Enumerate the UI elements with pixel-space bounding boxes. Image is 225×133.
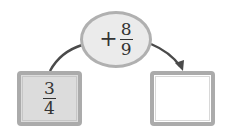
input-denominator: 4 <box>44 100 55 117</box>
operation-denominator: 9 <box>121 41 132 58</box>
input-arrow-line <box>50 45 82 71</box>
operation-fraction: 8 9 <box>120 21 133 58</box>
function-machine-diagram: + 8 9 3 4 <box>0 0 225 133</box>
answer-box[interactable] <box>150 71 215 126</box>
input-box: 3 4 <box>17 71 82 126</box>
plus-operator: + <box>99 26 117 51</box>
input-fraction: 3 4 <box>43 80 56 117</box>
input-numerator: 3 <box>44 80 55 97</box>
operation-numerator: 8 <box>121 21 132 38</box>
operation-oval: + 8 9 <box>80 11 152 68</box>
output-arrow-line <box>151 44 180 66</box>
